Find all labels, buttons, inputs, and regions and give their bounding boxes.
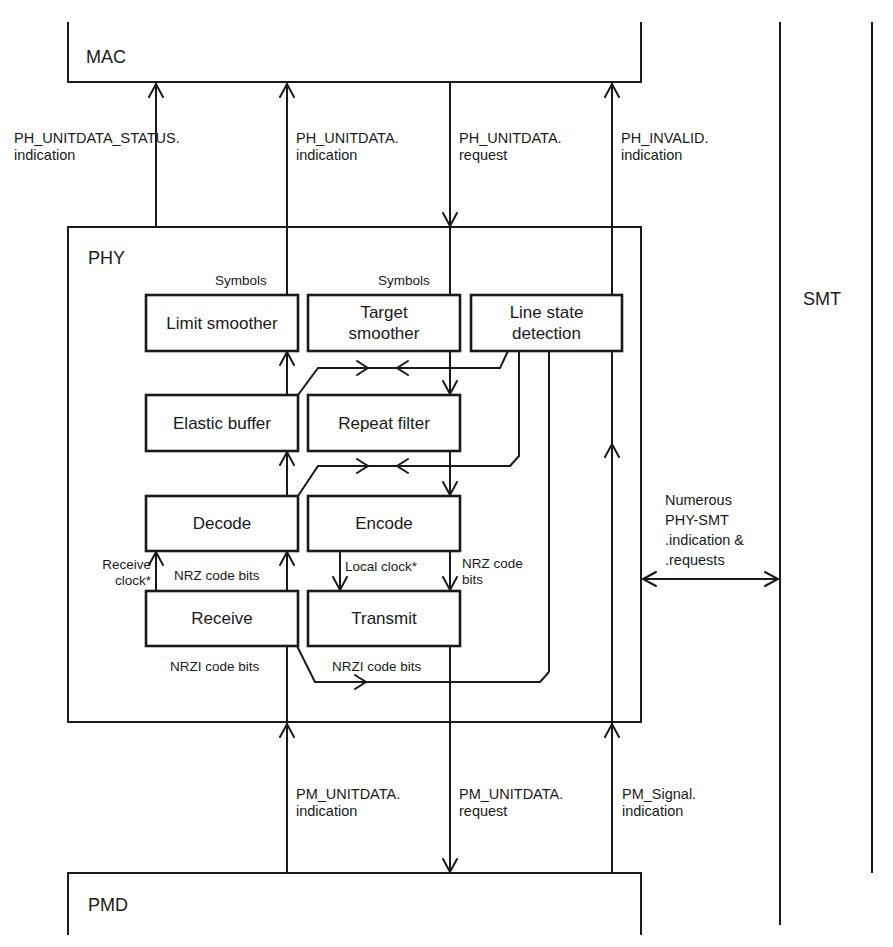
limit-smoother-block: Limit smoother <box>146 295 298 351</box>
ph-invalid-indication-label: PH_INVALID.indication <box>621 130 709 164</box>
smt-column <box>780 22 872 925</box>
local-clock-label: Local clock* <box>345 559 417 575</box>
nrz-code-bits-rx-label: NRZ code bits <box>174 568 260 584</box>
pm-unitdata-indication-arrow <box>280 646 294 873</box>
pm-unitdata-request-label: PM_UNITDATA.request <box>459 786 563 820</box>
ph-unitdata-status-indication-label: PH_UNITDATA_STATUS.indication <box>14 130 180 164</box>
ph-unitdata-indication-arrow <box>280 83 294 295</box>
receive-block: Receive <box>146 591 298 646</box>
encode-block: Encode <box>308 496 460 551</box>
decode-block: Decode <box>146 496 298 551</box>
line-state-detection-block: Line statedetection <box>471 295 622 351</box>
mac-layer-outline <box>68 22 641 82</box>
nrzi-code-bits-tx-label: NRZI code bits <box>332 659 421 675</box>
mac-layer-label: MAC <box>86 48 126 66</box>
symbols-label-left: Symbols <box>215 273 267 289</box>
ph-unitdata-indication-label: PH_UNITDATA.indication <box>296 130 399 164</box>
smt-layer-label: SMT <box>803 290 841 308</box>
ph-unitdata-request-arrow <box>443 82 457 295</box>
phy-layer-label: PHY <box>88 249 125 267</box>
phy-smt-signals-label: Numerous PHY-SMT .indication & .requests <box>665 490 744 570</box>
symbols-label-right: Symbols <box>378 273 430 289</box>
repeat-filter-block: Repeat filter <box>308 395 460 451</box>
transmit-block: Transmit <box>308 591 460 646</box>
target-smoother-block: Targetsmoother <box>308 295 460 351</box>
elastic-buffer-block: Elastic buffer <box>146 395 298 451</box>
phy-smt-bidirectional-arrow <box>643 572 778 586</box>
ph-invalid-indication-arrow <box>605 83 619 873</box>
nrz-code-bits-tx-label: NRZ codebits <box>462 556 523 588</box>
pmd-layer-outline <box>68 873 641 935</box>
pm-unitdata-indication-label: PM_UNITDATA.indication <box>296 786 400 820</box>
ph-unitdata-request-label: PH_UNITDATA.request <box>459 130 562 164</box>
pm-signal-indication-label: PM_Signal.indication <box>622 786 696 820</box>
nrzi-code-bits-rx-label: NRZI code bits <box>170 659 259 675</box>
pmd-layer-label: PMD <box>88 896 128 914</box>
pm-unitdata-request-arrow <box>443 646 457 872</box>
receive-clock-label: Receiveclock* <box>85 557 151 589</box>
